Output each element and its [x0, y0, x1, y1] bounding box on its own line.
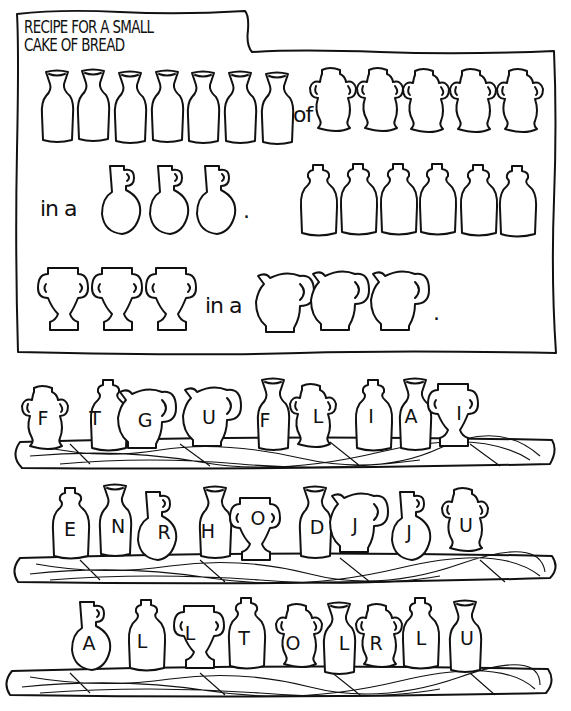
letter-tile: U	[194, 406, 224, 428]
letter-tile: I	[444, 402, 474, 424]
letter-tile: L	[175, 622, 205, 644]
recipe-row1-amphorae	[308, 66, 568, 146]
letter-tile: A	[396, 405, 426, 427]
letter-tile: A	[74, 632, 104, 654]
recipe-title: RECIPE FOR A SMALL CAKE OF BREAD	[24, 18, 153, 54]
letter-tile: F	[250, 409, 280, 431]
title-line-1: RECIPE FOR A SMALL	[24, 18, 153, 36]
period: .	[243, 198, 249, 223]
letter-tile: L	[127, 630, 157, 652]
recipe-row1-tall-bottles	[38, 68, 298, 148]
letter-tile: F	[28, 407, 58, 429]
letter-tile: R	[361, 632, 391, 654]
period-2: .	[433, 300, 439, 325]
letter-tile: J	[340, 514, 370, 536]
letter-tile: H	[193, 520, 223, 542]
letter-tile: L	[406, 627, 436, 649]
letter-tile: O	[243, 507, 273, 529]
letter-tile: U	[451, 514, 481, 536]
letter-tile: J	[394, 521, 424, 543]
letter-tile: T	[80, 407, 110, 429]
letter-tile: E	[55, 518, 85, 540]
letter-tile: O	[278, 632, 308, 654]
letter-tile: L	[329, 632, 359, 654]
letter-tile: I	[356, 405, 386, 427]
letter-tile: N	[103, 515, 133, 537]
letter-tile: R	[149, 521, 179, 543]
letter-tile: U	[452, 627, 482, 649]
letter-tile: G	[130, 409, 160, 431]
connector-in-a-2: in a	[205, 293, 242, 318]
letter-tile: D	[302, 516, 332, 538]
letter-tile: L	[303, 405, 333, 427]
connector-in-a: in a	[40, 196, 77, 221]
recipe-row3-footed-cups	[36, 264, 206, 344]
letter-tile: T	[229, 627, 259, 649]
recipe-row2-corked-bottles	[300, 158, 550, 238]
recipe-row3-pitchers	[256, 266, 446, 346]
title-line-2: CAKE OF BREAD	[24, 36, 153, 54]
